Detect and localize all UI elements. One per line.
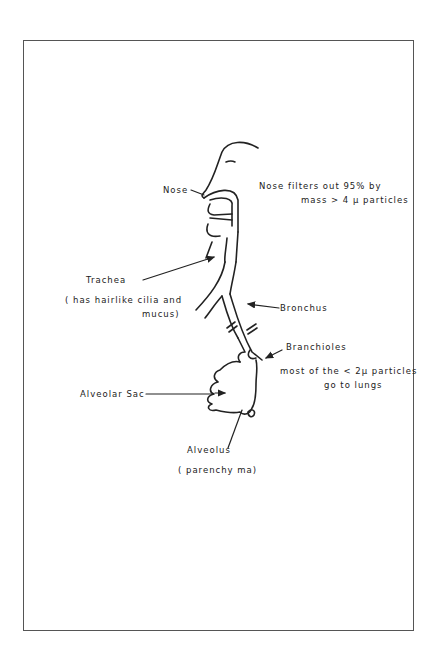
alveolar-sac	[208, 360, 257, 417]
label-bronchioles-note-1: most of the < 2µ particles	[280, 367, 417, 376]
head-outline	[202, 142, 258, 262]
label-alveolus: Alveolus	[187, 446, 231, 455]
nose-pointer	[191, 190, 204, 195]
label-trachea-note-2: mucus)	[142, 310, 179, 319]
label-bronchus: Bronchus	[280, 304, 328, 313]
label-nose-note-2: mass > 4 µ particles	[301, 196, 409, 205]
label-bronchioles: Branchioles	[286, 343, 347, 352]
alveolus-pointer	[228, 410, 242, 448]
bronchus-pointer	[248, 304, 279, 308]
label-nose-note-1: Nose filters out 95% by	[259, 182, 381, 191]
label-alveolus-note: ( parenchy ma)	[178, 466, 257, 475]
bronchioles-pointer	[266, 350, 282, 358]
trachea-pointer	[143, 257, 214, 280]
trachea-bronchi	[196, 262, 262, 362]
pointer-lines	[143, 190, 282, 448]
respiratory-tract-drawing	[0, 0, 439, 660]
label-bronchioles-note-2: go to lungs	[324, 381, 383, 390]
label-trachea: Trachea	[86, 276, 126, 285]
label-alveolar-sac: Alveolar Sac	[80, 390, 145, 399]
label-trachea-note-1: ( has hairlike cilia and	[65, 296, 182, 305]
label-nose: Nose	[163, 186, 188, 195]
